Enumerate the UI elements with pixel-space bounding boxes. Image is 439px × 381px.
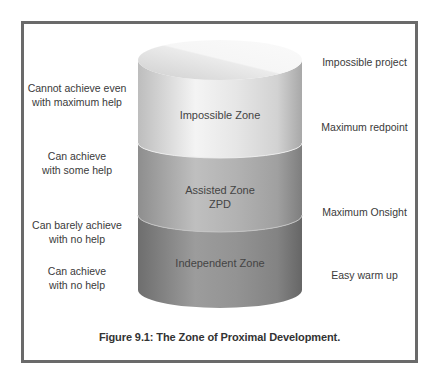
left-label-no-help: Can achieve with no help xyxy=(22,265,132,292)
independent-zone-label: Independent Zone xyxy=(140,256,300,270)
left-label-cannot-achieve: Cannot achieve even with maximum help xyxy=(22,82,132,109)
right-label-impossible-project: Impossible project xyxy=(312,56,417,70)
left-label-some-help: Can achieve with some help xyxy=(22,150,132,177)
right-label-maximum-redpoint: Maximum redpoint xyxy=(312,121,417,135)
cylinder-top-cap xyxy=(138,40,302,80)
assisted-zone-label: Assisted Zone ZPD xyxy=(140,183,300,211)
impossible-zone-label: Impossible Zone xyxy=(140,108,300,122)
right-label-maximum-onsight: Maximum Onsight xyxy=(312,206,417,220)
right-label-easy-warm-up: Easy warm up xyxy=(312,269,417,283)
left-label-barely-no-help: Can barely achieve with no help xyxy=(22,219,132,246)
figure-caption: Figure 9.1: The Zone of Proximal Develop… xyxy=(0,331,439,343)
